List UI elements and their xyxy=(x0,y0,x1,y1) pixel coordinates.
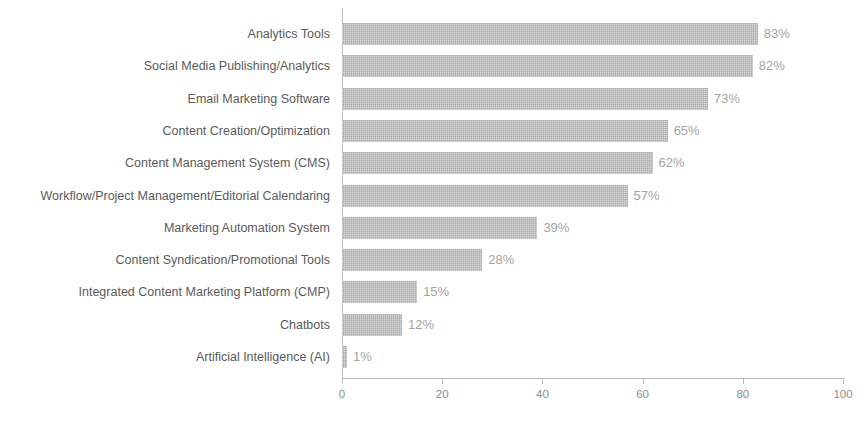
bar-row: 12% xyxy=(342,314,843,336)
bar-row: 57% xyxy=(342,185,843,207)
x-axis-tick-label: 100 xyxy=(833,388,852,401)
x-axis-tick-label: 80 xyxy=(736,388,749,401)
category-axis-labels: Analytics Tools Social Media Publishing/… xyxy=(0,0,336,436)
bar xyxy=(342,281,417,303)
category-label: Chatbots xyxy=(280,318,330,332)
category-label: Integrated Content Marketing Platform (C… xyxy=(79,285,331,299)
bar-value-label: 28% xyxy=(488,253,514,267)
category-label: Social Media Publishing/Analytics xyxy=(144,59,330,73)
bar-row: 83% xyxy=(342,23,843,45)
bar xyxy=(342,55,753,77)
x-axis-tick xyxy=(542,378,543,384)
bar xyxy=(342,152,653,174)
bar-chart: Analytics Tools Social Media Publishing/… xyxy=(0,0,867,436)
x-axis-tick-label: 60 xyxy=(636,388,649,401)
bar-value-label: 73% xyxy=(714,92,740,106)
bar-row: 28% xyxy=(342,249,843,271)
category-label: Email Marketing Software xyxy=(188,92,330,106)
x-axis-tick-label: 40 xyxy=(536,388,549,401)
category-label: Analytics Tools xyxy=(248,27,330,41)
bar-row: 15% xyxy=(342,281,843,303)
bar-value-label: 83% xyxy=(764,27,790,41)
x-axis-tick xyxy=(643,378,644,384)
bar xyxy=(342,249,482,271)
bar-row: 73% xyxy=(342,88,843,110)
bar-value-label: 1% xyxy=(353,350,372,364)
bar xyxy=(342,185,628,207)
x-axis-line xyxy=(342,378,844,379)
x-axis-tick xyxy=(743,378,744,384)
category-label: Marketing Automation System xyxy=(164,221,330,235)
bar xyxy=(342,314,402,336)
bar-value-label: 15% xyxy=(423,285,449,299)
bar-value-label: 39% xyxy=(543,221,569,235)
x-axis-tick-label: 0 xyxy=(339,388,345,401)
x-axis-tick-label: 20 xyxy=(436,388,449,401)
bar xyxy=(342,346,347,368)
bar-row: 82% xyxy=(342,55,843,77)
x-axis-tick xyxy=(843,378,844,384)
bar xyxy=(342,88,708,110)
x-axis-tick xyxy=(342,378,343,384)
x-axis-tick xyxy=(442,378,443,384)
category-label: Content Syndication/Promotional Tools xyxy=(116,253,330,267)
bar-value-label: 65% xyxy=(674,124,700,138)
bar-value-label: 82% xyxy=(759,59,785,73)
bar xyxy=(342,23,758,45)
bar xyxy=(342,120,668,142)
category-label: Workflow/Project Management/Editorial Ca… xyxy=(41,189,331,203)
bar xyxy=(342,217,537,239)
bar-row: 1% xyxy=(342,346,843,368)
category-label: Artificial Intelligence (AI) xyxy=(196,350,330,364)
bar-value-label: 62% xyxy=(659,156,685,170)
bar-row: 62% xyxy=(342,152,843,174)
bar-row: 39% xyxy=(342,217,843,239)
bar-row: 65% xyxy=(342,120,843,142)
bar-value-label: 12% xyxy=(408,318,434,332)
category-label: Content Management System (CMS) xyxy=(125,156,330,170)
bar-value-label: 57% xyxy=(634,189,660,203)
plot-area: 83% 82% 73% 65% 62% 57% 39% 28% xyxy=(342,8,843,378)
category-label: Content Creation/Optimization xyxy=(163,124,330,138)
